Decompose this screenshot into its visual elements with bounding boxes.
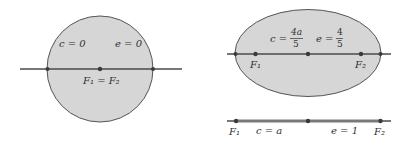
eccentricity-diagram: c = 0 e = 0 F₁ = F₂ c = 4a 5 e = 4 5 F₁ … <box>0 0 405 143</box>
segment-center <box>306 119 310 123</box>
ellipse-e-numerator: 4 <box>337 27 343 37</box>
ellipse-vertex-left <box>234 52 238 56</box>
ellipse-center <box>306 52 310 56</box>
circle-e-label: e = 0 <box>115 38 143 49</box>
segment-c-label: c = a <box>256 125 282 136</box>
ellipse-focus-1-label: F₁ <box>249 59 261 70</box>
circle-focus-label: F₁ = F₂ <box>82 75 120 86</box>
ellipse-vertex-right <box>379 52 383 56</box>
ellipse-panel: c = 4a 5 e = 4 5 F₁ F₂ <box>227 10 391 97</box>
segment-focus-2 <box>378 119 382 123</box>
ellipse-c-denominator: 5 <box>293 39 299 49</box>
ellipse-e-prefix: e = <box>316 33 333 44</box>
segment-focus-1 <box>234 119 238 123</box>
circle-c-label: c = 0 <box>59 38 86 49</box>
circle-vertex-right <box>151 67 155 71</box>
ellipse-e-denominator: 5 <box>337 39 343 49</box>
ellipse-c-prefix: c = <box>270 33 287 44</box>
ellipse-focus-2 <box>359 52 363 56</box>
segment-focus-1-label: F₁ <box>228 126 240 137</box>
ellipse-c-numerator: 4a <box>290 27 302 37</box>
circle-center-focus <box>98 67 102 71</box>
segment-panel: F₁ c = a e = 1 F₂ <box>227 119 391 137</box>
ellipse-focus-1 <box>253 52 257 56</box>
segment-focus-2-label: F₂ <box>373 126 385 137</box>
circle-vertex-left <box>46 67 50 71</box>
segment-e-label: e = 1 <box>331 125 358 136</box>
ellipse-focus-2-label: F₂ <box>354 59 366 70</box>
circle-panel: c = 0 e = 0 F₁ = F₂ <box>20 16 182 122</box>
